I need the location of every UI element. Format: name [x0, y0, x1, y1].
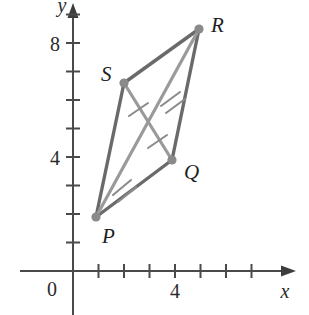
- vertex-label-Q: Q: [184, 160, 199, 184]
- quadrilateral-diagonals: [96, 29, 199, 217]
- x-axis-label: x: [280, 280, 290, 302]
- geometry-figure: P Q R S 0 4 4 8 x y: [0, 0, 309, 315]
- vertex-label-P: P: [101, 224, 115, 248]
- y-axis-label: y: [56, 0, 67, 17]
- y-tick-label-4: 4: [50, 147, 60, 169]
- vertex-dot-R: [194, 24, 203, 33]
- coordinate-plane-svg: P Q R S 0 4 4 8 x y: [0, 0, 309, 315]
- vertex-label-R: R: [210, 13, 224, 37]
- vertex-dot-P: [91, 212, 100, 221]
- x-axis-arrow-icon: [281, 266, 296, 277]
- vertex-labels: P Q R S: [101, 13, 224, 248]
- vertex-dot-Q: [167, 155, 176, 164]
- origin-label: 0: [47, 278, 57, 300]
- side-RS: [124, 29, 199, 83]
- vertex-label-S: S: [101, 62, 112, 86]
- y-tick-label-8: 8: [50, 33, 60, 55]
- y-axis-arrow-icon: [68, 3, 79, 18]
- x-axis-group: [20, 266, 296, 277]
- vertex-dot-S: [119, 78, 128, 87]
- axis-labels: 0 4 4 8 x y: [47, 0, 290, 302]
- side-SP: [96, 83, 124, 217]
- x-tick-label-4: 4: [170, 280, 180, 302]
- y-axis-group: [68, 3, 79, 315]
